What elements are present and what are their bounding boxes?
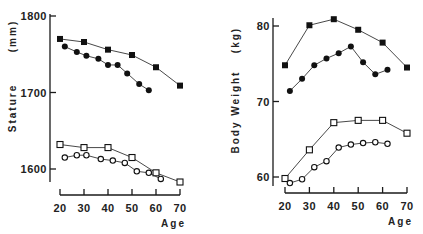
marker-circle-filled — [299, 76, 305, 82]
y-tick-label: 1600 — [21, 163, 47, 175]
x-tick-label: 20 — [53, 202, 66, 214]
marker-circle-open — [324, 158, 329, 163]
marker-square-filled — [57, 36, 63, 42]
marker-circle-filled — [384, 67, 390, 73]
marker-circle-open — [158, 176, 163, 181]
marker-circle-open — [134, 169, 139, 174]
marker-circle-filled — [360, 59, 366, 65]
x-tick-label: 30 — [77, 202, 90, 214]
x-tick-label: 40 — [101, 202, 114, 214]
marker-square-filled — [81, 39, 87, 45]
x-tick-label: 60 — [376, 200, 389, 212]
x-tick-label: 50 — [125, 202, 138, 214]
marker-circle-open — [98, 156, 103, 161]
y-tick-label: 1800 — [21, 10, 47, 22]
x-tick-label: 50 — [352, 200, 365, 212]
marker-square-filled — [282, 62, 288, 68]
y-tick-label: 70 — [257, 96, 270, 108]
marker-circle-filled — [83, 53, 89, 59]
marker-square-open — [129, 155, 135, 161]
x-axis-title: Age — [388, 216, 413, 227]
marker-circle-open — [299, 177, 304, 182]
x-tick-label: 70 — [173, 202, 186, 214]
marker-circle-filled — [74, 49, 80, 55]
marker-circle-open — [62, 155, 67, 160]
body-weight-chart: 607080203040506070AgeBody Weight(kg) — [230, 16, 414, 227]
marker-circle-open — [74, 153, 79, 158]
marker-circle-open — [348, 142, 353, 147]
marker-circle-filled — [62, 44, 68, 50]
marker-circle-open — [312, 164, 317, 169]
marker-circle-filled — [311, 62, 317, 68]
marker-circle-filled — [95, 56, 101, 62]
marker-square-filled — [404, 65, 410, 71]
marker-square-filled — [177, 83, 183, 89]
marker-square-filled — [380, 40, 386, 46]
marker-circle-open — [373, 140, 378, 145]
marker-circle-open — [385, 141, 390, 146]
marker-square-open — [306, 147, 312, 153]
x-axis-title: Age — [161, 218, 186, 229]
marker-square-open — [57, 142, 63, 148]
marker-circle-filled — [287, 88, 293, 94]
y-tick-label: 60 — [257, 171, 270, 183]
marker-circle-filled — [146, 87, 152, 93]
x-tick-label: 20 — [278, 200, 291, 212]
marker-circle-open — [146, 170, 151, 175]
marker-square-open — [404, 130, 410, 136]
marker-circle-filled — [336, 50, 342, 56]
marker-circle-open — [360, 140, 365, 145]
marker-square-open — [355, 117, 361, 123]
y-axis-unit: (kg) — [230, 27, 241, 53]
x-tick-label: 40 — [327, 200, 340, 212]
marker-circle-open — [110, 158, 115, 163]
series-line-open-square — [285, 120, 407, 178]
marker-circle-filled — [115, 62, 121, 68]
marker-circle-filled — [105, 62, 111, 68]
marker-square-open — [380, 117, 386, 123]
marker-square-filled — [355, 27, 361, 33]
y-axis-title: Stature — [7, 84, 18, 132]
x-tick-label: 70 — [400, 200, 413, 212]
y-tick-label: 1700 — [21, 87, 47, 99]
marker-square-filled — [129, 52, 135, 58]
marker-square-filled — [105, 47, 111, 53]
x-tick-label: 30 — [303, 200, 316, 212]
x-tick-label: 60 — [149, 202, 162, 214]
marker-square-open — [177, 179, 183, 185]
marker-circle-open — [122, 160, 127, 165]
marker-square-filled — [306, 22, 312, 28]
marker-circle-filled — [348, 43, 354, 49]
marker-square-open — [331, 120, 337, 126]
marker-square-filled — [153, 64, 159, 70]
marker-square-open — [81, 145, 87, 151]
marker-circle-open — [336, 145, 341, 150]
marker-circle-open — [84, 153, 89, 158]
marker-circle-open — [287, 180, 292, 185]
y-tick-label: 80 — [257, 20, 270, 32]
stature-chart: 160017001800203040506070AgeStature(mm) — [7, 10, 187, 229]
y-axis-unit: (mm) — [7, 20, 18, 52]
marker-circle-filled — [136, 81, 142, 87]
marker-circle-filled — [372, 71, 378, 77]
y-axis-title: Body Weight — [230, 71, 241, 154]
chart-canvas: 160017001800203040506070AgeStature(mm) 6… — [0, 0, 423, 234]
marker-square-open — [282, 176, 288, 182]
marker-circle-filled — [323, 55, 329, 61]
marker-square-filled — [331, 16, 337, 22]
marker-square-open — [105, 145, 111, 151]
series-line-filled-square — [60, 39, 180, 86]
marker-circle-filled — [124, 70, 130, 76]
series-line-filled-square — [285, 19, 407, 67]
